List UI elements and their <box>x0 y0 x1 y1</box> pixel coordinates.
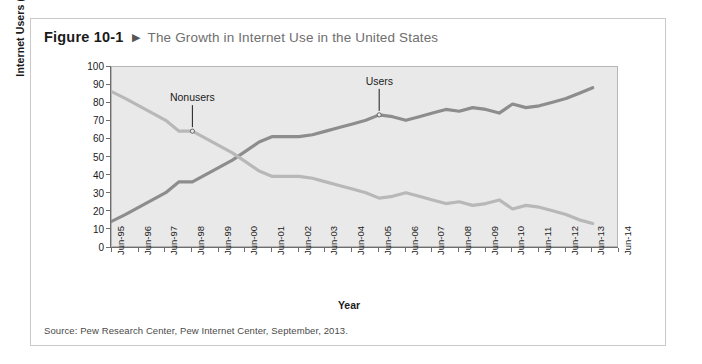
x-axis-tick-mark <box>618 248 619 252</box>
y-axis-tick-label: 10 <box>68 223 104 234</box>
x-axis-tick-mark <box>218 248 219 252</box>
x-axis-tick-mark <box>324 248 325 252</box>
y-axis-tick-mark <box>106 66 110 67</box>
x-axis-tick-mark <box>298 248 299 252</box>
y-axis-tick-label: 90 <box>68 79 104 90</box>
series-line-users <box>111 88 593 222</box>
x-axis-tick-mark <box>431 248 432 252</box>
x-axis-tick-mark <box>191 248 192 252</box>
y-axis-tick-label: 60 <box>68 133 104 144</box>
x-axis-tick-mark <box>511 248 512 252</box>
y-axis-tick-mark <box>106 138 110 139</box>
y-axis-tick-label: 70 <box>68 115 104 126</box>
x-axis-tick-mark <box>164 248 165 252</box>
y-axis-tick-mark <box>106 156 110 157</box>
x-axis-tick-mark <box>591 248 592 252</box>
y-axis-tick-mark <box>106 84 110 85</box>
y-axis-tick-label: 0 <box>68 242 104 253</box>
x-axis-tick-mark <box>538 248 539 252</box>
source-note: Source: Pew Research Center, Pew Interne… <box>44 325 348 336</box>
x-axis-tick-mark <box>351 248 352 252</box>
y-axis-tick-label: 80 <box>68 97 104 108</box>
y-axis-tick-mark <box>106 228 110 229</box>
y-axis-tick-label: 30 <box>68 187 104 198</box>
annotation-label-users: Users <box>366 75 393 87</box>
y-axis-tick-label: 50 <box>68 151 104 162</box>
chart-area: Internet Users (percentage) 010203040506… <box>31 19 667 347</box>
x-axis-tick-mark <box>405 248 406 252</box>
y-axis-tick-mark <box>106 174 110 175</box>
series-line-nonusers <box>111 91 593 223</box>
figure-panel: Figure 10-1 ▶ The Growth in Internet Use… <box>30 18 666 346</box>
x-axis-tick-mark <box>458 248 459 252</box>
x-axis-tick-mark <box>271 248 272 252</box>
y-axis-tick-label: 100 <box>68 61 104 72</box>
y-axis-tick-label: 20 <box>68 205 104 216</box>
x-axis-tick-mark <box>565 248 566 252</box>
y-axis-tick-mark <box>106 102 110 103</box>
y-axis-tick-mark <box>106 120 110 121</box>
y-axis-label: Internet Users (percentage) <box>14 0 26 107</box>
y-axis-tick-label: 40 <box>68 169 104 180</box>
x-axis-tick-mark <box>138 248 139 252</box>
x-axis-tick-mark <box>378 248 379 252</box>
screenshot-root: Figure 10-1 ▶ The Growth in Internet Use… <box>0 0 702 364</box>
y-axis-tick-mark <box>106 247 110 248</box>
y-axis-tick-mark <box>106 192 110 193</box>
x-axis-tick-mark <box>244 248 245 252</box>
x-axis-tick-label: Jun-14 <box>622 226 633 255</box>
annotation-label-nonusers: Nonusers <box>170 91 215 103</box>
x-axis-tick-mark <box>485 248 486 252</box>
y-axis-tick-mark <box>106 210 110 211</box>
x-axis-label: Year <box>31 299 667 311</box>
x-axis-tick-mark <box>111 248 112 252</box>
